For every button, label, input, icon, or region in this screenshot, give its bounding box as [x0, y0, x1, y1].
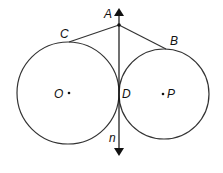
segment-ac [69, 25, 119, 42]
point-a [117, 23, 121, 27]
geometry-diagram: A C B O D P n [0, 0, 223, 173]
label-d: D [122, 87, 131, 101]
segment-ab [119, 25, 166, 49]
label-o: O [54, 87, 63, 101]
label-b: B [170, 34, 178, 48]
point-o-center [68, 92, 71, 95]
label-n: n [109, 131, 116, 145]
label-c: C [60, 27, 69, 41]
label-a: A [103, 7, 112, 21]
point-p-center [162, 93, 165, 96]
label-p: P [167, 87, 175, 101]
